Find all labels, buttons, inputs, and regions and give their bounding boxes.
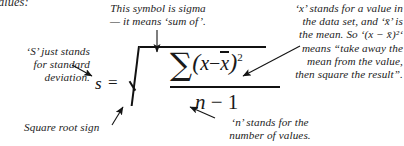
radical-vinculum — [140, 46, 266, 48]
annotation-sqrt-line-1: Square root sign — [24, 121, 144, 134]
formula-numerator: ∑(x−x)2 — [170, 49, 243, 78]
annotation-n-line-1: ‘n’ stands for the — [205, 116, 335, 129]
cutoff-text-fragment: alues: — [0, 0, 29, 7]
annotation-s-note: ‘S’ just stands for standard deviation. — [0, 45, 90, 85]
minus-sign: − — [209, 52, 220, 74]
annotation-sqrt-note: Square root sign — [24, 121, 144, 134]
annotation-x-line-6: then square the result”. — [272, 68, 403, 81]
radical-stroke — [129, 46, 143, 106]
annotation-x-line-1: ‘x’ stands for a value in — [272, 2, 403, 15]
variable-n: n — [195, 90, 206, 114]
close-paren: ) — [229, 49, 237, 75]
annotation-sigma-note: This symbol is sigma — it means ‘sum of’… — [88, 2, 228, 28]
x-bar-mean: x — [220, 52, 229, 75]
annotation-s-line-1: ‘S’ just stands — [0, 45, 90, 58]
annotation-x-line-2: the data set, and ‘x̄’ is — [272, 15, 403, 28]
annotation-x-line-5: mean from the value, — [272, 55, 403, 68]
annotation-n-line-2: number of values. — [205, 129, 335, 142]
denominator-one: 1 — [228, 90, 239, 114]
denominator-minus-sign: − — [211, 90, 223, 114]
annotation-x-note: ‘x’ stands for a value in the data set, … — [272, 2, 403, 81]
annotation-sigma-line-1: This symbol is sigma — [88, 2, 228, 15]
sigma-symbol: ∑ — [170, 46, 192, 82]
formula-denominator: n − 1 — [195, 90, 238, 115]
annotation-s-line-3: deviation. — [0, 71, 90, 84]
radical-sign: ∑(x−x)2 n − 1 — [123, 46, 266, 106]
fraction-bar — [170, 86, 280, 88]
variable-x: x — [200, 52, 209, 74]
annotation-s-line-2: for standard — [0, 58, 90, 71]
annotation-sigma-line-2: — it means ‘sum of’. — [88, 15, 228, 28]
annotation-n-note: ‘n’ stands for the number of values. — [205, 116, 335, 142]
annotation-x-line-3: the mean. So ‘(x − x̄)²‘ — [272, 28, 403, 41]
formula-lhs-s: s — [95, 74, 102, 94]
exponent-two: 2 — [237, 51, 243, 63]
formula-equals-sign: = — [108, 73, 118, 93]
annotation-x-line-4: means “take away the — [272, 42, 403, 55]
open-paren: ( — [192, 49, 200, 75]
